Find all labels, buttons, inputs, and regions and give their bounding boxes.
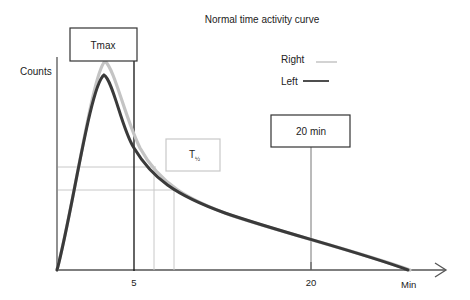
x-axis-label: Min: [401, 279, 416, 290]
legend-left-label: Left: [281, 76, 298, 87]
series-right-line: [57, 61, 410, 270]
series-left-line: [57, 75, 408, 270]
legend: Right Left: [281, 54, 337, 87]
y-axis-label: Counts: [20, 66, 52, 77]
tmax-label: Tmax: [91, 40, 116, 51]
tick-20: 20: [306, 277, 317, 288]
tick-5: 5: [131, 277, 136, 288]
legend-right-label: Right: [281, 54, 305, 65]
chart-title: Normal time activity curve: [205, 14, 320, 25]
twenty-min-label: 20 min: [296, 126, 326, 137]
time-activity-chart: Normal time activity curve Counts Min 5 …: [0, 0, 470, 300]
